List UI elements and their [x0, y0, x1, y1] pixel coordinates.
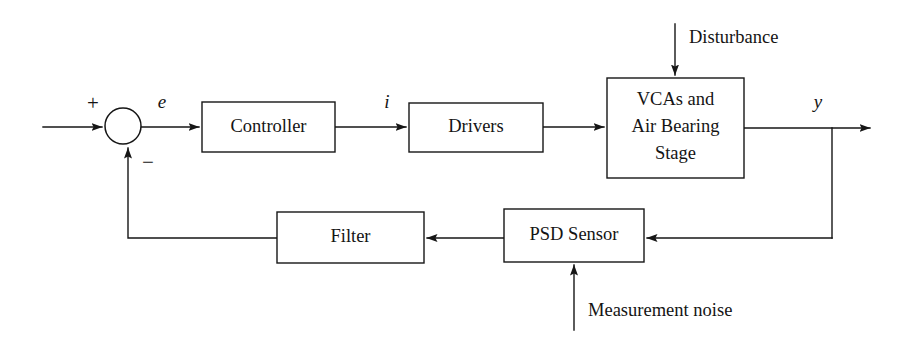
- block-plant-label-line2: Air Bearing: [632, 116, 720, 136]
- block-controller-label: Controller: [230, 116, 306, 136]
- block-filter-label: Filter: [330, 226, 370, 246]
- block-psd-sensor-label: PSD Sensor: [530, 224, 619, 244]
- signal-label-error: e: [158, 91, 166, 112]
- signal-label-output: y: [812, 91, 823, 112]
- block-diagram-canvas: Controller Drivers VCAs and Air Bearing …: [0, 0, 905, 350]
- block-plant-label-line1: VCAs and: [637, 89, 715, 109]
- measurement-noise-label: Measurement noise: [588, 300, 732, 320]
- block-diagram-svg: Controller Drivers VCAs and Air Bearing …: [0, 0, 905, 350]
- summing-junction-minus-label: −: [142, 150, 154, 174]
- signal-label-current: i: [384, 91, 389, 112]
- disturbance-label: Disturbance: [689, 27, 778, 47]
- block-plant-label-line3: Stage: [655, 143, 696, 163]
- summing-junction[interactable]: [105, 108, 141, 144]
- block-drivers-label: Drivers: [448, 116, 503, 136]
- summing-junction-plus-label: +: [87, 91, 99, 115]
